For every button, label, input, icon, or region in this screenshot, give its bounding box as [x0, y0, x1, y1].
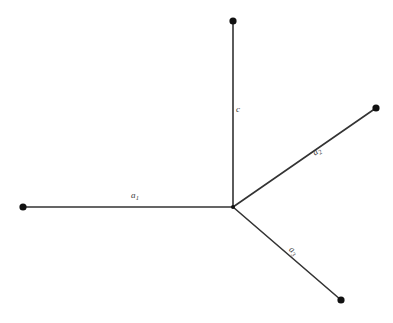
node-dot-upper-right: [372, 104, 379, 111]
node-dot-lower-right: [337, 296, 344, 303]
edge-label-a1-base: a: [131, 190, 136, 200]
edge-label-c: c: [236, 105, 240, 114]
edge-line-a3: [233, 207, 341, 300]
diagram-canvas: c a1 a2 a3: [0, 0, 393, 323]
graph-svg: [0, 0, 393, 323]
edge-label-a1-subscript: 1: [136, 194, 139, 201]
node-dot-left: [19, 203, 26, 210]
node-dot-center-junction: [231, 205, 235, 209]
node-dot-top: [229, 17, 236, 24]
edge-line-a2: [233, 108, 376, 207]
edge-label-c-base: c: [236, 104, 240, 114]
edge-label-a1: a1: [131, 191, 139, 200]
